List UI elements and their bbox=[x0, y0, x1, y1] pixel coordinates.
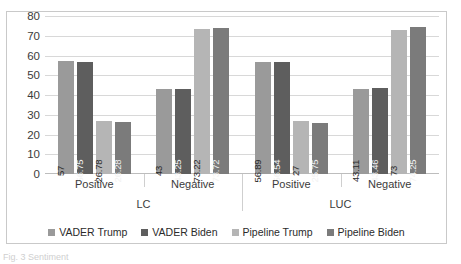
y-tick-label: 20 bbox=[8, 129, 40, 140]
bar-vader-biden[interactable]: 43.46 bbox=[372, 88, 388, 174]
bar-group: 4343.2573.2273.72 bbox=[144, 16, 243, 174]
legend-item[interactable]: VADER Biden bbox=[141, 226, 217, 238]
legend-item[interactable]: VADER Trump bbox=[48, 226, 127, 238]
group-axis-labels: LCLUC bbox=[45, 197, 439, 213]
bar-vader-trump[interactable]: 43 bbox=[156, 89, 172, 174]
y-tick-label: 50 bbox=[8, 70, 40, 81]
y-axis: 80706050403020100 bbox=[8, 16, 40, 174]
bar-group: 43.1143.467374.25 bbox=[341, 16, 440, 174]
bar-pipeline-trump[interactable]: 73.22 bbox=[194, 29, 210, 174]
legend-label: VADER Biden bbox=[152, 226, 217, 238]
bar-slot: 56.89 bbox=[255, 62, 271, 174]
bar-vader-trump[interactable]: 56.89 bbox=[255, 62, 271, 174]
y-tick-label: 40 bbox=[8, 90, 40, 101]
y-tick-label: 80 bbox=[8, 11, 40, 22]
y-tick-label: 70 bbox=[8, 30, 40, 41]
legend-swatch-icon bbox=[327, 229, 334, 236]
figure-caption: Fig. 3 Sentiment bbox=[3, 252, 458, 264]
bar-vader-trump[interactable]: 43.11 bbox=[353, 89, 369, 174]
legend-swatch-icon bbox=[232, 229, 239, 236]
bar-vader-biden[interactable]: 56.54 bbox=[274, 62, 290, 174]
bar-slot: 57 bbox=[58, 61, 74, 174]
bar-pipeline-trump[interactable]: 26.78 bbox=[96, 121, 112, 174]
bar-slot: 27 bbox=[293, 121, 309, 174]
bar-slot: 73.72 bbox=[213, 28, 229, 174]
bar-slot: 25.75 bbox=[312, 123, 328, 174]
category-axis-labels: PositiveNegativePositiveNegative bbox=[45, 177, 439, 193]
legend-label: Pipeline Biden bbox=[338, 226, 405, 238]
bar-group: 56.8956.542725.75 bbox=[242, 16, 341, 174]
legend-label: Pipeline Trump bbox=[243, 226, 313, 238]
bar-pipeline-trump[interactable]: 73 bbox=[391, 30, 407, 174]
y-tick-label: 60 bbox=[8, 50, 40, 61]
bar-slot: 56.54 bbox=[274, 62, 290, 174]
bar-slot: 73 bbox=[391, 30, 407, 174]
bar-pipeline-biden[interactable]: 25.75 bbox=[312, 123, 328, 174]
bar-slot: 73.22 bbox=[194, 29, 210, 174]
bar-vader-biden[interactable]: 56.75 bbox=[77, 62, 93, 174]
legend-swatch-icon bbox=[48, 229, 55, 236]
y-tick-label: 10 bbox=[8, 149, 40, 160]
bar-slot: 43.46 bbox=[372, 88, 388, 174]
bar-slot: 43.11 bbox=[353, 89, 369, 174]
group-label: LC bbox=[45, 197, 242, 213]
bar-pipeline-biden[interactable]: 74.25 bbox=[410, 27, 426, 174]
legend-item[interactable]: Pipeline Biden bbox=[327, 226, 405, 238]
figure-container: 80706050403020100 5756.7526.7826.284343.… bbox=[0, 0, 461, 264]
bar-slot: 74.25 bbox=[410, 27, 426, 174]
y-tick-label: 30 bbox=[8, 109, 40, 120]
bar-vader-biden[interactable]: 43.25 bbox=[175, 89, 191, 174]
bar-vader-trump[interactable]: 57 bbox=[58, 61, 74, 174]
legend-label: VADER Trump bbox=[59, 226, 127, 238]
plot-area: 5756.7526.7826.284343.2573.2273.7256.895… bbox=[45, 16, 439, 174]
bars-layer: 5756.7526.7826.284343.2573.2273.7256.895… bbox=[45, 16, 439, 174]
category-label: Negative bbox=[144, 177, 243, 193]
bar-pipeline-biden[interactable]: 26.28 bbox=[115, 122, 131, 174]
bar-pipeline-trump[interactable]: 27 bbox=[293, 121, 309, 174]
bar-group: 5756.7526.7826.28 bbox=[45, 16, 144, 174]
bar-slot: 26.78 bbox=[96, 121, 112, 174]
y-tick-label: 0 bbox=[8, 169, 40, 180]
bar-pipeline-biden[interactable]: 73.72 bbox=[213, 28, 229, 174]
category-label: Positive bbox=[45, 177, 144, 193]
legend-swatch-icon bbox=[141, 229, 148, 236]
group-label: LUC bbox=[242, 197, 439, 213]
bar-slot: 26.28 bbox=[115, 122, 131, 174]
bar-slot: 43 bbox=[156, 89, 172, 174]
bar-slot: 56.75 bbox=[77, 62, 93, 174]
category-label: Positive bbox=[242, 177, 341, 193]
category-label: Negative bbox=[341, 177, 440, 193]
chart-legend: VADER TrumpVADER BidenPipeline TrumpPipe… bbox=[6, 224, 447, 240]
legend-item[interactable]: Pipeline Trump bbox=[232, 226, 313, 238]
bar-slot: 43.25 bbox=[175, 89, 191, 174]
